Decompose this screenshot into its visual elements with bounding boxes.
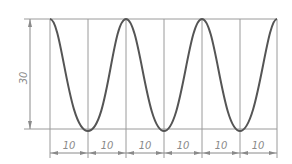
segment-label-3: 10 [139, 140, 152, 151]
grid-lines [50, 19, 277, 158]
amplitude-label: 30 [18, 72, 29, 85]
segment-label-1: 10 [63, 140, 76, 151]
segment-label-5: 10 [215, 140, 228, 151]
segment-label-6: 10 [252, 140, 265, 151]
segment-label-2: 10 [101, 140, 114, 151]
segment-label-4: 10 [177, 140, 190, 151]
wave-drawing: 30 10 10 10 10 10 10 [0, 0, 292, 164]
